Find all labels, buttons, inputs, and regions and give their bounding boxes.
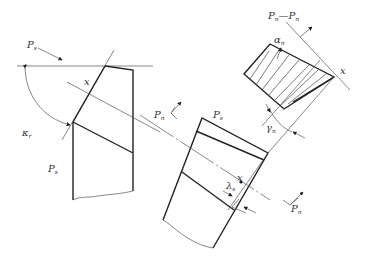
gamma-arrow xyxy=(293,132,305,138)
middle-tool-view xyxy=(140,115,270,248)
alpha-n-arrow xyxy=(277,48,281,59)
diagram-svg: Ps Ps Ps Pn Pn Pn—Pn κr x x x αn γn λs xyxy=(0,0,365,264)
tool-outline-top-right xyxy=(105,66,133,191)
ps-top-arrow xyxy=(38,48,62,60)
tool-diagonal-line xyxy=(73,122,133,153)
gamma-arrow-2 xyxy=(266,104,270,112)
left-tool-view xyxy=(17,48,160,200)
label-kappa-r: κr xyxy=(21,127,33,139)
label-alpha-n: αn xyxy=(274,34,285,46)
label-ps-top: Ps xyxy=(26,39,37,51)
label-pn-left: Pn xyxy=(153,109,165,121)
label-section-pn-pn: Pn—Pn xyxy=(267,10,299,22)
label-gamma-n: γn xyxy=(266,122,276,134)
label-lambda-s: λs xyxy=(225,180,235,192)
section-pn-view xyxy=(244,22,350,153)
middle-tool-outline xyxy=(163,118,268,248)
lambda-arrow xyxy=(244,207,256,213)
middle-tool-lower-line xyxy=(182,172,234,210)
label-ps-bottom: Ps xyxy=(47,163,58,175)
label-ps-middle: Ps xyxy=(212,109,223,121)
pn-left-marker xyxy=(171,102,181,119)
middle-axis-line xyxy=(140,115,270,200)
alpha-n-arrow-up xyxy=(300,27,312,37)
label-x-right: x xyxy=(340,65,346,76)
tool-break-line xyxy=(73,191,133,200)
label-x-middle: x xyxy=(237,172,243,183)
pn-left-corner-icon xyxy=(171,107,177,119)
middle-tool-break-line xyxy=(163,220,213,248)
gamma-ref-line-2 xyxy=(268,77,334,153)
label-x-left: x xyxy=(84,76,90,87)
pn-left-arrow xyxy=(172,102,181,112)
section-flank-edge xyxy=(293,77,334,102)
lambda-arrow-2 xyxy=(223,191,232,196)
section-hatching xyxy=(250,50,326,106)
label-pn-bottom-right: Pn xyxy=(290,203,302,215)
lambda-ref-line xyxy=(228,153,268,210)
section-outline xyxy=(244,44,334,109)
kappa-r-arc xyxy=(25,68,70,125)
tool-angle-diagram: Ps Ps Ps Pn Pn Pn—Pn κr x x x αn γn λs xyxy=(0,0,365,264)
section-x-line xyxy=(286,22,350,90)
